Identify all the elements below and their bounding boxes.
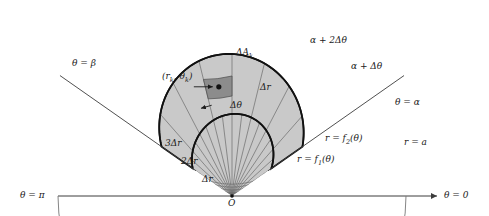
sample-point-close: ): [189, 71, 193, 81]
label-r-equals-f1: r = f1(θ): [297, 155, 335, 166]
label-alpha-plus-delta-theta: α + Δθ: [351, 62, 382, 71]
label-r-equals-a: r = a: [404, 138, 427, 147]
label-delta-area-k: ΔAk: [236, 48, 253, 59]
label-2-delta-r: 2Δr: [181, 157, 198, 166]
label-delta-area-main: ΔA: [236, 47, 249, 57]
label-r-equals-f2-arg: (θ): [350, 133, 362, 143]
label-r-equals-f2-main: r = f: [325, 133, 346, 143]
label-theta-zero: θ = 0: [444, 191, 468, 200]
polar-region-figure: θ = π θ = 0 θ = α θ = β α + Δθ α + 2Δθ r…: [0, 0, 489, 216]
sample-point-open: (r: [162, 71, 170, 81]
label-theta-pi: θ = π: [20, 191, 45, 200]
label-origin: O: [228, 199, 235, 208]
label-alpha-plus-2-delta-theta: α + 2Δθ: [310, 36, 347, 45]
label-theta-beta: θ = β: [72, 59, 96, 68]
label-r-equals-f2: r = f2(θ): [325, 134, 363, 145]
label-cell-delta-theta: Δθ: [230, 101, 242, 110]
sample-point-mid: , θ: [174, 71, 185, 81]
sample-point-dot: [216, 84, 221, 89]
label-theta-alpha: θ = α: [395, 98, 420, 107]
label-delta-r: Δr: [202, 175, 213, 184]
diagram-canvas: [0, 0, 489, 216]
label-sample-point-coords: (rk, θk): [162, 72, 192, 83]
label-r-equals-f1-arg: (θ): [322, 154, 334, 164]
label-r-equals-f1-main: r = f: [297, 154, 318, 164]
label-cell-delta-r: Δr: [260, 83, 271, 92]
label-3-delta-r: 3Δr: [165, 139, 182, 148]
label-delta-area-index: k: [249, 52, 253, 60]
